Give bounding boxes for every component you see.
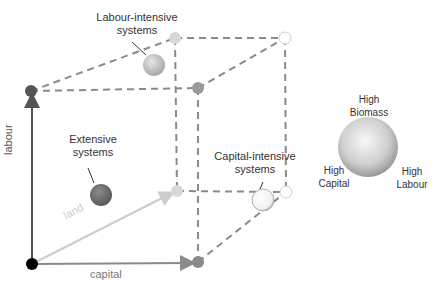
labour-intensive-sphere xyxy=(143,54,165,76)
node-land-capital xyxy=(280,186,292,198)
label-capital-intensive: Capital-intensive systems xyxy=(200,150,310,176)
node-labour-capital xyxy=(192,82,204,94)
input-space-cube-diagram: Labour-intensive systems Extensive syste… xyxy=(0,0,437,293)
legend-high-capital: High Capital xyxy=(317,164,351,190)
legend-high-labour: High Labour xyxy=(392,165,432,191)
label-labour-intensive: Labour-intensive systems xyxy=(82,11,192,37)
labour-axis-label: labour xyxy=(2,124,14,155)
capital-axis-label: capital xyxy=(90,268,122,280)
node-all-high xyxy=(279,32,291,44)
node-labour xyxy=(25,85,37,97)
capital-axis xyxy=(32,263,188,264)
node-land xyxy=(171,185,183,197)
legend-high-biomass: High Biomass xyxy=(340,93,398,119)
node-origin xyxy=(26,258,38,270)
node-capital xyxy=(192,256,204,268)
label-extensive: Extensive systems xyxy=(58,133,128,159)
extensive-sphere xyxy=(90,184,112,206)
capital-intensive-sphere xyxy=(252,189,274,211)
